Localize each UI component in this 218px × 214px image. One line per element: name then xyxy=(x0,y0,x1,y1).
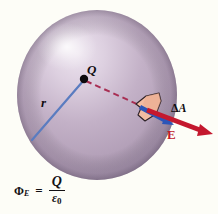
charge-label: Q xyxy=(87,63,96,76)
delta-symbol: Δ xyxy=(171,101,179,115)
fraction-denominator: ε0 xyxy=(52,191,61,204)
area-symbol: A xyxy=(179,101,187,115)
fraction-numerator: Q xyxy=(50,175,64,190)
equals-symbol: = xyxy=(35,184,42,197)
phi-subscript: E xyxy=(24,190,29,198)
physics-figure-gauss-law: Q r ΔA E ΦE = Q ε0 xyxy=(0,0,218,214)
electric-field-label: E xyxy=(167,128,176,141)
epsilon-subscript: 0 xyxy=(57,196,62,206)
phi-symbol: Φ xyxy=(14,185,24,197)
fraction: Q ε0 xyxy=(49,175,65,204)
area-element-label: ΔA xyxy=(171,102,187,114)
flux-formula: ΦE = Q ε0 xyxy=(14,176,65,205)
electric-field-arrow-head xyxy=(197,124,213,136)
radius-label: r xyxy=(41,96,46,109)
